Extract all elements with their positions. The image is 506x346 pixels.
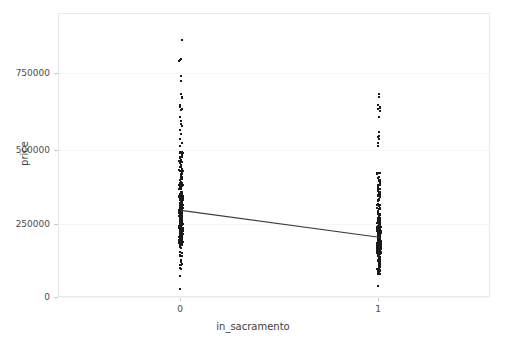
- y-tick-label-0: 0: [2, 293, 50, 302]
- plot-area: [58, 13, 490, 297]
- y-tick-label-750000: 750000: [2, 69, 50, 78]
- y-tick-mark-0: [54, 297, 58, 298]
- y-tick-label-500000: 500000: [2, 146, 50, 155]
- trend-line: [59, 14, 491, 298]
- x-tick-label-0: 0: [160, 305, 200, 314]
- x-axis-label: in_sacramento: [0, 321, 506, 332]
- x-tick-label-1: 1: [358, 305, 398, 314]
- chart-figure: price 0 250000 500000 750000 0 1 in_sacr…: [0, 0, 506, 346]
- y-tick-label-250000: 250000: [2, 220, 50, 229]
